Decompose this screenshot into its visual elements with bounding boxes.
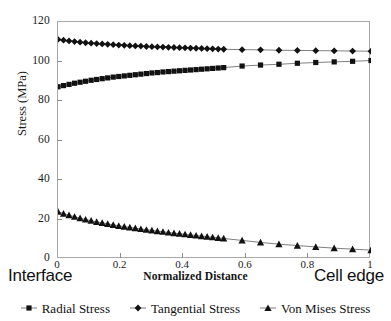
data-point-marker (294, 47, 301, 54)
y-tick-label: 20 (8, 213, 50, 225)
data-point-marker (105, 75, 110, 80)
y-tick-label: 120 (8, 15, 50, 27)
data-point-marker (368, 48, 371, 55)
data-point-marker (135, 305, 142, 312)
data-point-marker (100, 76, 105, 81)
data-point-marker (258, 62, 263, 67)
data-point-marker (127, 73, 132, 78)
series-line (58, 212, 371, 251)
legend-label: Von Mises Stress (281, 302, 370, 315)
chart-figure: Stress (MPa) 020406080100120 00.20.40.60… (0, 0, 391, 321)
legend-item-radial-stress[interactable]: Radial Stress (21, 302, 110, 315)
data-point-marker (177, 68, 182, 73)
data-point-marker (313, 60, 318, 65)
data-point-marker (160, 69, 165, 74)
data-point-marker (77, 80, 82, 85)
plot-area (57, 21, 370, 258)
x-tick-mark (245, 253, 246, 258)
data-point-marker (77, 39, 84, 46)
legend-label: Tangential Stress (151, 302, 240, 315)
y-tick-mark (57, 140, 62, 141)
legend-item-tangential-stress[interactable]: Tangential Stress (130, 302, 240, 315)
data-point-marker (312, 47, 319, 54)
data-point-marker (116, 74, 121, 79)
series-layer (58, 36, 371, 253)
x-axis-left-end-label: Interface (8, 266, 72, 286)
data-point-marker (26, 305, 31, 310)
data-point-marker (331, 47, 338, 54)
data-point-marker (133, 72, 138, 77)
data-point-marker (72, 81, 77, 86)
y-tick-label: 100 (8, 55, 50, 67)
data-point-marker (210, 66, 215, 71)
data-point-marker (276, 62, 281, 67)
data-point-marker (104, 41, 111, 48)
data-point-marker (220, 46, 227, 53)
data-point-marker (350, 59, 355, 64)
data-point-marker (137, 43, 144, 50)
data-point-marker (155, 70, 160, 75)
data-point-marker (188, 67, 193, 72)
legend-marker-square-icon (21, 302, 37, 314)
data-point-marker (93, 40, 100, 47)
data-point-marker (240, 63, 245, 68)
data-point-marker (89, 78, 94, 83)
data-point-marker (221, 65, 226, 70)
legend-label: Radial Stress (42, 302, 110, 315)
data-point-marker (144, 71, 149, 76)
data-point-marker (257, 46, 264, 53)
data-point-marker (295, 61, 300, 66)
data-point-marker (121, 42, 128, 49)
data-point-marker (60, 37, 67, 44)
x-tick-label: 0.2 (100, 258, 140, 270)
data-point-marker (166, 69, 171, 74)
data-point-marker (66, 38, 73, 45)
data-point-marker (149, 70, 154, 75)
data-point-marker (193, 67, 198, 72)
data-point-marker (349, 48, 356, 55)
plot-svg (58, 22, 371, 259)
data-point-marker (61, 83, 66, 88)
y-tick-label: 80 (8, 94, 50, 106)
series-von-mises-stress (58, 208, 371, 253)
y-tick-label: 60 (8, 134, 50, 146)
data-point-marker (83, 79, 88, 84)
data-point-marker (182, 68, 187, 73)
x-tick-label: 0.6 (225, 258, 265, 270)
data-point-marker (122, 73, 127, 78)
data-point-marker (82, 39, 89, 46)
data-point-marker (94, 77, 99, 82)
y-tick-label: 40 (8, 173, 50, 185)
data-point-marker (88, 40, 95, 47)
data-point-marker (199, 67, 204, 72)
legend-marker-triangle-icon (260, 302, 276, 314)
legend-item-von-mises-stress[interactable]: Von Mises Stress (260, 302, 370, 315)
data-point-marker (205, 66, 210, 71)
data-point-marker (332, 59, 337, 64)
data-point-marker (58, 36, 61, 43)
x-tick-mark (307, 253, 308, 258)
data-point-marker (276, 47, 283, 54)
data-point-marker (239, 46, 246, 53)
series-line (58, 61, 371, 87)
data-point-marker (66, 82, 71, 87)
data-point-marker (138, 72, 143, 77)
data-point-marker (171, 69, 176, 74)
y-tick-mark (57, 219, 62, 220)
series-tangential-stress (58, 36, 371, 55)
chart-legend: Radial StressTangential StressVon Mises … (0, 297, 391, 319)
data-point-marker (58, 84, 61, 89)
data-point-marker (110, 41, 117, 48)
y-tick-mark (57, 179, 62, 180)
data-point-marker (368, 58, 371, 63)
data-point-marker (60, 210, 67, 217)
legend-marker-diamond-icon (130, 302, 146, 314)
x-tick-mark (120, 253, 121, 258)
series-radial-stress (58, 58, 371, 89)
data-point-marker (58, 208, 62, 215)
data-point-marker (99, 41, 106, 48)
x-tick-label: 0.4 (162, 258, 202, 270)
data-point-marker (71, 38, 78, 45)
x-axis-right-end-label: Cell edge (314, 266, 384, 286)
y-tick-mark (57, 100, 62, 101)
